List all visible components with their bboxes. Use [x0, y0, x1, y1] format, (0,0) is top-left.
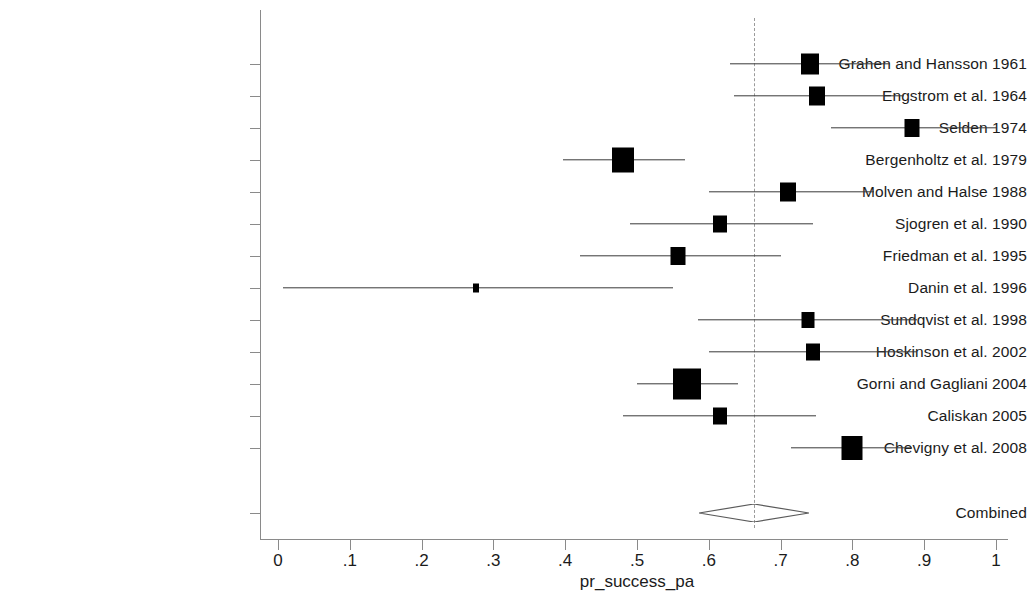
study-label-6: Friedman et al. 1995: [775, 247, 1027, 265]
x-axis-tick-label: .2: [415, 551, 429, 571]
x-axis-tick-label: .3: [486, 551, 500, 571]
x-axis-tick: [493, 540, 494, 550]
x-axis-tick-label: .9: [917, 551, 931, 571]
x-axis-tick: [924, 540, 925, 550]
y-axis-tick: [250, 256, 261, 257]
x-axis-tick-label: 0: [273, 551, 282, 571]
study-marker: [809, 87, 825, 106]
x-axis-tick: [852, 540, 853, 550]
y-axis-tick: [250, 64, 261, 65]
forest-plot: Grahen and Hansson 1961Engstrom et al. 1…: [0, 0, 1027, 604]
x-axis-tick: [996, 540, 997, 550]
study-marker: [780, 183, 796, 202]
x-axis-tick-label: .6: [702, 551, 716, 571]
study-marker: [473, 284, 479, 293]
x-axis-spine: [260, 539, 1008, 540]
y-axis-tick: [250, 513, 261, 514]
study-marker: [670, 247, 685, 265]
x-axis-tick-label: .1: [343, 551, 357, 571]
study-label-3: Bergenholtz et al. 1979: [775, 151, 1027, 169]
y-axis-tick: [250, 384, 261, 385]
x-axis-tick: [709, 540, 710, 550]
study-marker: [801, 312, 814, 328]
study-marker: [713, 408, 727, 425]
x-axis-tick-label: .5: [630, 551, 644, 571]
y-axis-tick: [250, 416, 261, 417]
x-axis-tick-label: .7: [774, 551, 788, 571]
study-marker: [612, 148, 634, 173]
x-axis-tick: [350, 540, 351, 550]
combined-diamond: [699, 504, 809, 522]
combined-label: Combined: [775, 504, 1027, 522]
y-axis-tick: [250, 288, 261, 289]
y-axis-tick: [250, 192, 261, 193]
y-axis-tick: [250, 448, 261, 449]
x-axis-tick: [637, 540, 638, 550]
study-marker: [801, 54, 819, 75]
y-axis-tick: [250, 352, 261, 353]
study-marker: [806, 344, 820, 361]
y-axis-tick: [250, 160, 261, 161]
study-label-7: Danin et al. 1996: [775, 279, 1027, 297]
x-axis-tick-label: .4: [558, 551, 572, 571]
study-marker: [904, 119, 919, 137]
y-axis-spine: [260, 10, 261, 540]
x-axis-tick-label: .8: [845, 551, 859, 571]
x-axis-tick: [278, 540, 279, 550]
y-axis-tick: [250, 96, 261, 97]
x-axis-tick: [565, 540, 566, 550]
study-label-10: Gorni and Gagliani 2004: [775, 375, 1027, 393]
study-marker: [842, 436, 863, 460]
x-axis-tick: [781, 540, 782, 550]
study-marker: [713, 216, 727, 233]
x-axis-title: pr_success_pa: [580, 572, 694, 592]
study-marker: [673, 369, 701, 400]
y-axis-tick: [250, 224, 261, 225]
x-axis-tick: [422, 540, 423, 550]
y-axis-tick: [250, 320, 261, 321]
y-axis-tick: [250, 128, 261, 129]
x-axis-tick-label: 1: [991, 551, 1000, 571]
